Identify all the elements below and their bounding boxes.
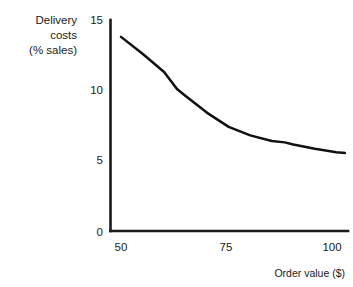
y-axis-title-line-2: costs [50,29,77,41]
y-tick-label-15: 15 [90,14,103,26]
y-tick-label-10: 10 [90,84,103,96]
x-axis-title: Order value ($) [274,267,345,279]
y-axis-title-line-1: Delivery [35,14,77,26]
series-line-delivery-costs [121,37,345,153]
chart-page: 15 10 5 0 50 75 100 Delivery costs (% sa… [0,0,353,287]
y-tick-label-0: 0 [97,226,103,238]
delivery-costs-line-chart: 15 10 5 0 50 75 100 Delivery costs (% sa… [0,0,353,287]
x-tick-label-75: 75 [220,241,233,253]
y-tick-label-5: 5 [97,154,103,166]
x-tick-label-50: 50 [115,241,128,253]
x-tick-label-100: 100 [322,241,341,253]
y-axis-title-line-3: (% sales) [29,44,77,56]
